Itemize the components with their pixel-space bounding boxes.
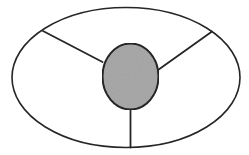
diagram-canvas [0, 0, 249, 155]
hub-circle [103, 44, 159, 110]
diagram-svg [0, 0, 249, 155]
